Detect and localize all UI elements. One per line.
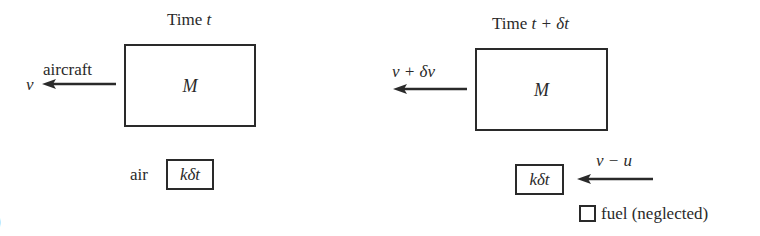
- left-panel-title: Time t: [167, 11, 211, 28]
- air-mass-label-right: kδt: [529, 170, 549, 190]
- cropped-glyph: ): [0, 210, 1, 232]
- air-mass-box-left: kδt: [166, 159, 214, 190]
- air-velocity-arrow-icon: [575, 173, 655, 185]
- fuel-legend-square-icon: [579, 205, 596, 222]
- velocity-label-right: v + δv: [392, 63, 435, 80]
- right-title-prefix: Time: [492, 14, 532, 33]
- right-title-var: t + δt: [532, 14, 569, 33]
- air-mass-box-right: kδt: [515, 164, 564, 195]
- air-velocity-label: v − u: [596, 152, 632, 169]
- aircraft-mass-box-left: M: [124, 44, 256, 127]
- velocity-arrow-left-icon: [40, 78, 118, 90]
- left-title-var: t: [207, 10, 212, 29]
- mass-label-left: M: [126, 75, 254, 96]
- fuel-legend-label: fuel (neglected): [601, 205, 708, 222]
- aircraft-label: aircraft: [43, 61, 92, 78]
- velocity-label-left: v: [26, 76, 34, 93]
- right-panel-title: Time t + δt: [492, 15, 569, 32]
- air-mass-label-left: kδt: [180, 165, 200, 185]
- left-title-prefix: Time: [167, 10, 207, 29]
- mass-label-right: M: [477, 79, 606, 100]
- velocity-arrow-right-icon: [391, 83, 469, 95]
- aircraft-mass-box-right: M: [475, 48, 608, 131]
- air-label: air: [130, 166, 148, 183]
